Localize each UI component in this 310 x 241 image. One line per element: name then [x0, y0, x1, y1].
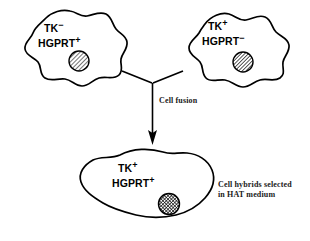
parent-cell-left-hgprt-label: HGPRT+ — [38, 35, 81, 49]
fusion-arrow: Cell fusion — [122, 71, 198, 145]
selection-caption-line-2: in HAT medium — [218, 190, 275, 199]
hybrid-cell: TK+ HGPRT+ — [80, 149, 213, 217]
fusion-arrow-left-branch — [122, 71, 152, 83]
selection-caption: Cell hybrids selected in HAT medium — [218, 180, 292, 199]
parent-cell-right-membrane — [189, 13, 289, 87]
fusion-arrow-right-branch — [153, 71, 183, 83]
hybrid-cell-hgprt-label: HGPRT+ — [112, 175, 155, 189]
parent-cell-right: TK+ HGPRT− — [189, 13, 289, 87]
hybrid-cell-nucleus — [159, 194, 180, 215]
parent-cell-left-nucleus — [69, 51, 89, 71]
parent-cell-left: TK− HGPRT+ — [25, 10, 127, 86]
parent-cell-right-nucleus — [233, 52, 253, 72]
fusion-arrow-label: Cell fusion — [159, 96, 198, 105]
cell-fusion-diagram: TK− HGPRT+ TK+ HGPRT− Cell fusion — [0, 0, 310, 241]
parent-cell-right-hgprt-label: HGPRT− — [202, 33, 245, 47]
selection-caption-line-1: Cell hybrids selected — [218, 180, 292, 189]
diagram-canvas: TK− HGPRT+ TK+ HGPRT− Cell fusion — [0, 0, 310, 241]
